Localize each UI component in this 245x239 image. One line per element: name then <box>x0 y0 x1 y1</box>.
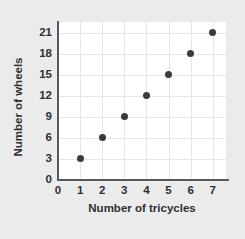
y-tick-label: 3 <box>46 153 52 165</box>
y-axis-title: Number of wheels <box>12 27 24 187</box>
x-axis-line <box>57 179 229 181</box>
x-tick-label: 7 <box>210 185 216 197</box>
gridline-horizontal <box>58 33 226 34</box>
x-axis-title: Number of tricycles <box>58 202 226 214</box>
y-tick-label: 0 <box>46 174 52 186</box>
y-tick-label: 9 <box>46 111 52 123</box>
gridline-vertical <box>213 22 214 180</box>
y-tick-label: 21 <box>39 27 52 39</box>
gridline-horizontal <box>58 96 226 97</box>
gridline-vertical <box>102 22 103 180</box>
y-tick-label: 15 <box>39 69 52 81</box>
gridline-vertical <box>124 22 125 180</box>
scatter-chart-figure: 01234567 036912151821 Number of tricycle… <box>0 0 245 239</box>
x-tick-label: 3 <box>121 185 127 197</box>
y-tick-label: 12 <box>39 90 52 102</box>
gridline-horizontal <box>58 117 226 118</box>
gridline-vertical <box>169 22 170 180</box>
gridline-horizontal <box>58 75 226 76</box>
x-tick-label: 2 <box>99 185 105 197</box>
x-tick-label: 1 <box>77 185 83 197</box>
x-tick-label: 0 <box>55 185 61 197</box>
x-tick-label: 4 <box>143 185 149 197</box>
gridline-vertical <box>146 22 147 180</box>
y-tick-label: 6 <box>46 132 52 144</box>
x-tick-label: 6 <box>187 185 193 197</box>
gridline-horizontal <box>58 54 226 55</box>
gridline-vertical <box>191 22 192 180</box>
x-tick-label: 5 <box>165 185 171 197</box>
y-tick-label: 18 <box>39 48 52 60</box>
y-axis-line <box>57 21 59 181</box>
gridline-horizontal <box>58 138 226 139</box>
